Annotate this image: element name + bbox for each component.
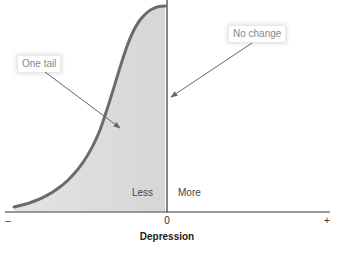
- x-tick-plus: +: [324, 215, 330, 226]
- x-tick-zero: 0: [164, 215, 170, 226]
- one-tail-shaded-area: [14, 6, 165, 211]
- one-tail-callout: One tail: [18, 56, 60, 72]
- no-change-arrow: [171, 43, 252, 97]
- x-axis-title: Depression: [140, 231, 194, 242]
- more-label: More: [178, 187, 201, 198]
- no-change-callout: No change: [229, 26, 285, 42]
- less-label: Less: [132, 187, 153, 198]
- x-tick-minus: –: [5, 215, 11, 226]
